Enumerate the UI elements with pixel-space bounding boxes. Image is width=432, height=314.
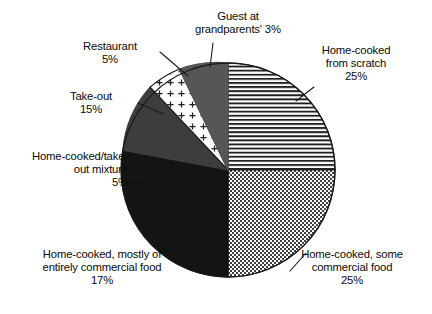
pie-label-home-cooked-mostly-commercial-food: Home-cooked, mostly of entirely commerci… <box>18 248 186 288</box>
pie-chart-figure: Guest at grandparents' 3% Restaurant 5% … <box>0 0 432 314</box>
pie-label-restaurant: Restaurant 5% <box>60 40 160 66</box>
pie-slices-group <box>121 62 335 277</box>
pie-label-guest-at-grandparents: Guest at grandparents' 3% <box>168 10 308 36</box>
pie-label-home-cooked-some-commercial-food: Home-cooked, some commercial food 25% <box>288 248 416 288</box>
pie-label-take-out: Take-out 15% <box>42 90 140 116</box>
pie-label-home-cooked-from-scratch: Home-cooked from scratch 25% <box>296 44 416 84</box>
pie-label-home-cooked-take-out-mixture: Home-cooked/take- out mixture 5% <box>2 150 128 190</box>
